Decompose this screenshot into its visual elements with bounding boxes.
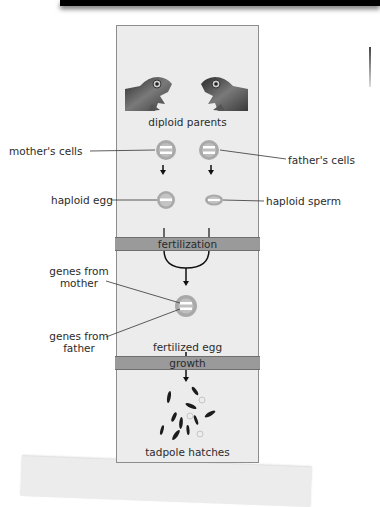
mother-frog-icon	[125, 77, 172, 111]
father-diploid-cell-icon	[199, 140, 219, 160]
haploid-egg-icon	[157, 191, 175, 209]
callout-mothers-cells: mother's cells	[9, 145, 82, 157]
meiosis-arrow-icon	[160, 165, 214, 175]
callout-haploid-egg: haploid egg	[51, 194, 113, 206]
mother-diploid-cell-icon	[156, 140, 176, 160]
fertilization-band: fertilization	[115, 237, 260, 251]
callout-haploid-sperm: haploid sperm	[266, 195, 341, 207]
callout-genes-from-mother: genes from mother	[44, 265, 114, 289]
stage-label-parents: diploid parents	[116, 116, 259, 128]
callout-genes-from-father: genes from father	[44, 330, 114, 354]
callout-genes-from-father-line2: father	[44, 342, 114, 354]
fertilized-egg-icon	[175, 295, 197, 317]
callout-genes-from-mother-line1: genes from	[44, 265, 114, 277]
callout-genes-from-mother-line2: mother	[44, 277, 114, 289]
stage-label-offspring: tadpole hatches	[116, 446, 259, 458]
tadpoles-icon	[159, 386, 216, 441]
callout-fathers-cells: father's cells	[288, 154, 355, 166]
father-frog-icon	[201, 77, 248, 111]
callout-genes-from-father-line1: genes from	[44, 330, 114, 342]
haploid-sperm-icon	[205, 195, 223, 206]
growth-band: growth	[115, 356, 260, 370]
stage-label-fertilized-egg: fertilized egg	[116, 341, 259, 353]
